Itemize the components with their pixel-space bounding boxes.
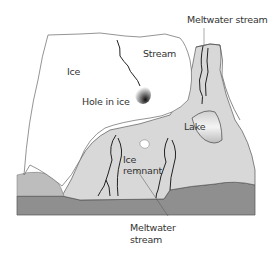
label-ice-remnant-2: remnant — [123, 165, 162, 176]
label-stream: Stream — [143, 48, 176, 59]
ice-remnant — [140, 140, 149, 148]
label-ice-remnant-1: Ice — [123, 154, 136, 165]
label-meltwater-stream-top: Meltwater stream — [187, 14, 268, 25]
label-hole-in-ice: Hole in ice — [82, 96, 130, 107]
hole-in-ice — [135, 86, 151, 104]
label-meltwater-stream-bottom-1: Meltwater — [130, 222, 176, 233]
label-ice: Ice — [67, 66, 80, 77]
label-meltwater-stream-bottom-2: stream — [130, 234, 162, 245]
label-lake: Lake — [184, 121, 205, 132]
glacier-diagram — [0, 0, 280, 253]
